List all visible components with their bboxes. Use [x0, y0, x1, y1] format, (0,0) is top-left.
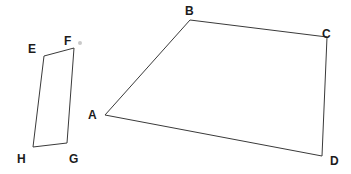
- vertex-label-c: C: [322, 28, 331, 40]
- vertex-label-e: E: [28, 43, 36, 55]
- vertex-label-h: H: [17, 153, 26, 165]
- quadrilateral-efgh-outline: [33, 48, 74, 147]
- vertex-label-a: A: [88, 109, 97, 121]
- geometry-figure-canvas: A B C D E F G H: [0, 0, 351, 174]
- figure-svg: [0, 0, 351, 174]
- vertex-label-f: F: [64, 35, 71, 47]
- quadrilateral-abcd-outline: [105, 20, 327, 156]
- vertex-label-d: D: [330, 155, 339, 167]
- vertex-label-b: B: [185, 5, 194, 17]
- vertex-label-g: G: [69, 153, 78, 165]
- stray-dot-artifact: [78, 41, 82, 45]
